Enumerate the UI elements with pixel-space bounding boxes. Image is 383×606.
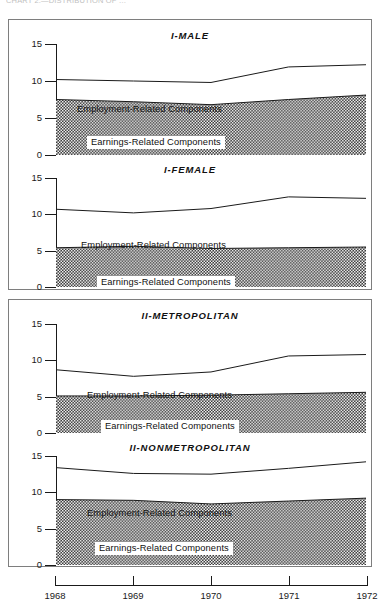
plot-area [56,178,366,287]
x-axis-tick [211,576,212,586]
panel-title: I-FEMALE [9,164,371,175]
earnings-components-label: Earnings-Related Components [101,420,239,433]
panel-i-male: I-MALE051015 Employment-Related Componen… [9,26,371,156]
y-axis-tick [45,433,56,434]
y-axis-tick-label: 0 [20,282,42,291]
y-axis-tick-label: 15 [20,451,42,460]
y-axis-tick-label: 0 [20,560,42,569]
y-axis-tick [45,360,56,361]
employment-components-label: Employment-Related Components [87,390,232,400]
chart-group-2: II-METROPOLITAN051015 Employment-Related… [8,299,372,567]
plot-area [56,324,366,433]
y-axis-tick [45,118,56,119]
employment-components-label: Employment-Related Components [87,508,232,518]
employment-components-label: Employment-Related Components [81,240,226,250]
y-axis-tick-label: 10 [20,355,42,364]
y-axis-tick-label: 10 [20,487,42,496]
employment-components-label: Employment-Related Components [77,104,222,114]
y-axis-tick-label: 10 [20,76,42,85]
y-axis-tick [45,287,56,288]
x-axis-tick-label: 1970 [200,590,221,601]
total-line [56,462,366,474]
x-axis-tick [367,576,368,586]
y-axis-tick [45,251,56,252]
y-axis-tick [45,529,56,530]
y-axis-tick-label: 15 [20,319,42,328]
y-axis-tick-label: 5 [20,392,42,401]
earnings-components-label: Earnings-Related Components [95,542,233,555]
x-axis-tick [133,576,134,586]
y-axis-tick [45,456,56,457]
y-axis-tick [45,214,56,215]
earnings-components-label: Earnings-Related Components [97,276,235,289]
x-axis-tick-label: 1969 [122,590,143,601]
y-axis-tick [45,81,56,82]
x-axis-tick-label: 1968 [44,590,65,601]
panel-ii-nonmetropolitan: II-NONMETROPOLITAN051015 Employment-Rela… [9,438,371,566]
x-axis-tick-label: 1972 [356,590,377,601]
panel-title: II-METROPOLITAN [9,310,371,321]
y-axis-tick [45,155,56,156]
y-axis-tick-label: 5 [20,524,42,533]
y-axis-tick [45,397,56,398]
panel-title: I-MALE [9,30,371,41]
panel-title: II-NONMETROPOLITAN [9,442,371,453]
chart-group-1: I-MALE051015 Employment-Related Componen… [8,19,372,290]
panel-ii-metropolitan: II-METROPOLITAN051015 Employment-Related… [9,306,371,434]
y-axis-tick-label: 15 [20,173,42,182]
y-axis-tick-label: 5 [20,246,42,255]
total-line [56,197,366,213]
earnings-components-label: Earnings-Related Components [87,136,225,149]
y-axis-tick [45,492,56,493]
total-line [56,355,366,377]
y-axis-tick-label: 0 [20,150,42,159]
y-axis-tick-label: 5 [20,113,42,122]
y-axis-tick [45,44,56,45]
y-axis-tick [45,324,56,325]
panel-i-female: I-FEMALE051015 Employment-Related Compon… [9,160,371,288]
figure-caption: CHART 2.—DISTRIBUTION OF … [6,0,126,3]
total-line [56,65,366,83]
y-axis-tick [45,565,56,566]
x-axis-tick [289,576,290,586]
x-axis: 19681969197019711972 [8,575,372,606]
y-axis-tick-label: 0 [20,428,42,437]
x-axis-tick-label: 1971 [278,590,299,601]
y-axis-tick-label: 15 [20,39,42,48]
x-axis-tick [55,576,56,586]
y-axis-tick [45,178,56,179]
y-axis-tick-label: 10 [20,209,42,218]
